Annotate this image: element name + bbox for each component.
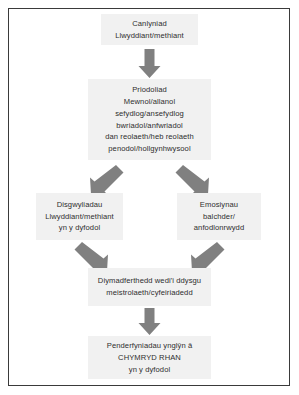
node-emotions-line-1: Emosiynau — [200, 199, 238, 211]
node-helplessness: Diymadferthedd wedi'i ddysgu meistrolaet… — [88, 268, 211, 306]
node-outcome: Canlyniad Llwyddiant/methiant — [101, 14, 198, 45]
node-attribution-line-5: dan reolaeth/heb reolaeth — [105, 131, 194, 143]
node-emotions: Emosiynau balchder/ anfodlonrwydd — [177, 193, 261, 240]
node-attribution-line-2: Mewnol/allanol — [124, 96, 175, 108]
node-emotions-line-2: balchder/ — [203, 211, 235, 223]
flowchart-diagram: Canlyniad Llwyddiant/methiant Priodoliad… — [0, 0, 299, 395]
node-expectations: Disgwyliadau Llwyddiant/methiant yn y dy… — [36, 193, 123, 240]
node-attribution-line-3: sefydlog/ansefydlog — [115, 108, 184, 120]
node-decisions: Penderfyniadau ynglŷn â CHYMRYD RHAN yn … — [88, 336, 211, 379]
node-decisions-line-3: yn y dyfodol — [129, 364, 170, 376]
node-emotions-line-3: anfodlonrwydd — [194, 222, 244, 234]
node-expectations-line-1: Disgwyliadau — [57, 199, 103, 211]
arrow-attribution-to-expectations — [90, 165, 124, 196]
node-expectations-line-3: yn y dyfodol — [59, 222, 100, 234]
node-attribution-line-1: Priodoliad — [132, 84, 167, 96]
node-attribution-line-4: bwriadol/anfwriadol — [116, 120, 183, 132]
node-attribution: Priodoliad Mewnol/allanol sefydlog/ansef… — [88, 79, 211, 160]
node-helplessness-line-2: meistrolaeth/cyfeiriadedd — [106, 287, 192, 299]
arrow-helplessness-to-decisions — [139, 308, 161, 335]
node-outcome-line-1: Canlyniad — [132, 18, 167, 30]
node-decisions-line-1: Penderfyniadau ynglŷn â — [107, 340, 192, 352]
node-outcome-line-2: Llwyddiant/methiant — [115, 30, 184, 42]
node-attribution-line-6: penodol/hollgynhwysool — [108, 143, 190, 155]
node-decisions-line-2: CHYMRYD RHAN — [118, 352, 181, 364]
arrow-outcome-to-attribution — [139, 49, 161, 78]
node-helplessness-line-1: Diymadferthedd wedi'i ddysgu — [98, 275, 201, 287]
arrow-attribution-to-emotions — [176, 165, 210, 196]
node-expectations-line-2: Llwyddiant/methiant — [45, 211, 114, 223]
